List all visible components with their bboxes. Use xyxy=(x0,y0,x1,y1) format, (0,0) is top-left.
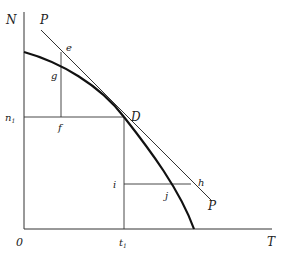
transformation-curve xyxy=(24,52,194,229)
label-d: D xyxy=(130,110,141,124)
label-f: f xyxy=(57,122,64,133)
x-axis-label: T xyxy=(267,235,276,249)
label-n1: n1 xyxy=(5,112,15,124)
tangent-line-pp xyxy=(41,30,212,201)
label-i: i xyxy=(113,179,116,190)
y-axis-label: N xyxy=(5,13,17,27)
label-j: j xyxy=(163,190,168,201)
label-t1: t1 xyxy=(119,237,127,249)
label-e: e xyxy=(66,42,72,53)
label-p-bottom: P xyxy=(207,199,217,213)
label-p-top: P xyxy=(39,13,49,27)
label-h: h xyxy=(198,177,204,188)
origin-label: 0 xyxy=(16,236,23,249)
diagram: N T 0 P P D e g f i h j n1 t1 xyxy=(0,0,287,254)
label-g: g xyxy=(51,70,57,81)
